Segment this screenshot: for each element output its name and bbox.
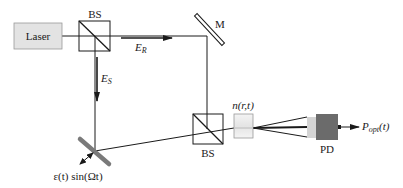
- photodetector-body: [316, 114, 338, 140]
- output-signal-label: Popt(t): [361, 120, 390, 134]
- laser-label: Laser: [26, 30, 51, 42]
- medium-box: [234, 114, 253, 138]
- vibration-label: ε(t) sin(Ωt): [53, 170, 102, 183]
- interferometer-diagram: ER ES Laser BS M BS n(r,t) PD Popt(t): [0, 0, 403, 188]
- photodetector-window: [307, 117, 317, 138]
- beam-splitter-top-label: BS: [88, 8, 101, 20]
- laser: Laser: [14, 23, 62, 49]
- medium: n(r,t): [232, 99, 254, 138]
- vibration-double-arrow: [80, 153, 93, 164]
- photodetector-output-pin: [338, 125, 341, 129]
- photodetector-label: PD: [320, 143, 334, 155]
- vibrating-mirror: ε(t) sin(Ωt): [53, 139, 109, 183]
- medium-label: n(r,t): [232, 99, 254, 112]
- mirror-label: M: [215, 18, 225, 30]
- signal-beam-label: ES: [100, 72, 112, 86]
- reference-beam-label: ER: [134, 41, 147, 55]
- beam-splitter-bottom-label: BS: [201, 147, 214, 159]
- beam-splitter-bottom-diagonal: [193, 114, 223, 144]
- beam-paths: [62, 36, 307, 151]
- mirror: M: [197, 16, 225, 43]
- beam-fan-middle: [253, 127, 307, 128]
- beam-fan-bottom: [253, 128, 307, 137]
- photodetector: PD: [307, 114, 341, 155]
- beam-splitter-bottom: BS: [193, 114, 223, 159]
